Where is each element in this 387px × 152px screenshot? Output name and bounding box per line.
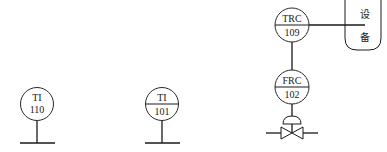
- instrument-tag: TI: [32, 92, 41, 103]
- vessel-label-line1: 设: [360, 9, 370, 20]
- instrument-diagram: TI 110 TI 101 设 备 TRC 109 FRC 102: [0, 0, 387, 152]
- instrument-number: 101: [155, 106, 170, 117]
- instrument-number: 109: [285, 27, 300, 38]
- valve-body-right-icon: [292, 127, 303, 139]
- instrument-frc-102: FRC 102: [275, 70, 309, 104]
- control-valve: [266, 104, 318, 139]
- instrument-ti-110: TI 110: [20, 88, 55, 144]
- diaphragm-actuator-icon: [283, 116, 301, 124]
- instrument-tag: TI: [157, 92, 166, 103]
- instrument-number: 110: [30, 104, 45, 115]
- instrument-tag: FRC: [283, 75, 302, 86]
- instrument-number: 102: [285, 89, 300, 100]
- vessel-label-line2: 备: [360, 31, 370, 43]
- instrument-trc-109: TRC 109: [275, 8, 309, 42]
- instrument-ti-101: TI 101: [145, 88, 180, 144]
- instrument-tag: TRC: [282, 13, 302, 24]
- valve-body-left-icon: [281, 127, 292, 139]
